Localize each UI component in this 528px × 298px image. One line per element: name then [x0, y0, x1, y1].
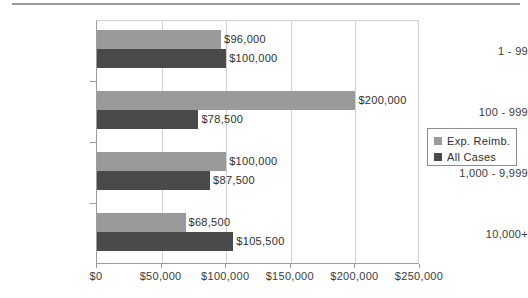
legend-item-all-cases: All Cases [434, 149, 516, 164]
y-axis-tick [90, 203, 96, 204]
x-axis-tick [419, 264, 420, 268]
bar-all-cases [97, 49, 226, 68]
bar-exp-reimb [97, 213, 186, 232]
bar-value-label: $68,500 [189, 216, 231, 228]
y-axis-tick [90, 81, 96, 82]
gridline [291, 21, 292, 263]
y-axis-tick [90, 142, 96, 143]
y-axis-category-label: 1 - 99 [440, 45, 528, 57]
bar-all-cases [97, 171, 210, 190]
bar-value-label: $100,000 [229, 52, 277, 64]
x-axis-tick-label: $200,000 [330, 270, 378, 282]
x-axis-tick [96, 264, 97, 268]
bar-exp-reimb [97, 152, 226, 171]
bar-exp-reimb [97, 91, 355, 110]
x-axis-tick-label: $50,000 [140, 270, 182, 282]
x-axis-tick-label: $250,000 [395, 270, 443, 282]
x-axis-tick-label: $150,000 [266, 270, 314, 282]
legend-label-all-cases: All Cases [447, 151, 496, 163]
bar-value-label: $200,000 [358, 94, 406, 106]
bar-all-cases [97, 232, 233, 251]
bar-chart: 1 - 99100 - 9991,000 - 9,99910,000+ $0$5… [0, 0, 528, 298]
x-axis-tick-label: $100,000 [201, 270, 249, 282]
bar-value-label: $96,000 [224, 33, 266, 45]
bar-value-label: $78,500 [201, 113, 243, 125]
legend-label-exp-reimb: Exp. Reimb. [447, 135, 510, 147]
bar-exp-reimb [97, 30, 221, 49]
bar-value-label: $105,500 [236, 235, 284, 247]
bar-all-cases [97, 110, 198, 129]
top-divider-rule [12, 3, 520, 5]
x-axis-tick [161, 264, 162, 268]
legend-swatch-icon-all-cases [434, 153, 442, 161]
gridline [355, 21, 356, 263]
legend-swatch-icon-exp-reimb [434, 137, 442, 145]
y-axis-category-label: 10,000+ [440, 228, 528, 240]
x-axis-tick [354, 264, 355, 268]
y-axis-category-label: 100 - 999 [440, 106, 528, 118]
chart-legend: Exp. Reimb. All Cases [427, 128, 517, 166]
x-axis-tick-label: $0 [90, 270, 103, 282]
bar-value-label: $87,500 [213, 174, 255, 186]
legend-item-exp-reimb: Exp. Reimb. [434, 133, 516, 148]
bar-value-label: $100,000 [229, 155, 277, 167]
x-axis-tick [290, 264, 291, 268]
x-axis-tick [225, 264, 226, 268]
y-axis-category-label: 1,000 - 9,999 [440, 167, 528, 179]
